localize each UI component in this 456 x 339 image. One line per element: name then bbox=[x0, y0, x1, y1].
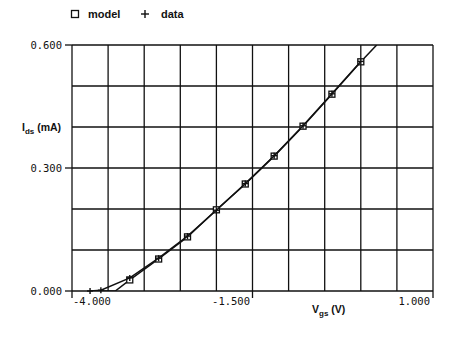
x-tick-label-neg1-5: -1.500 bbox=[212, 295, 250, 307]
legend: model data bbox=[72, 8, 185, 20]
legend-data-label: data bbox=[161, 8, 185, 20]
data-plus-marker-icon bbox=[98, 287, 104, 293]
y-tick-label-0600: 0.600 bbox=[30, 39, 62, 51]
legend-plus-marker-icon bbox=[141, 10, 149, 18]
x-tick-label-1: 1.000 bbox=[398, 295, 430, 307]
y-tick-label-0000: 0.000 bbox=[30, 285, 62, 297]
legend-model-label: model bbox=[88, 8, 120, 20]
x-axis-label: Vgs (V) bbox=[312, 303, 345, 318]
y-tick-label-0300: 0.300 bbox=[30, 162, 62, 174]
series-layer bbox=[87, 45, 377, 294]
plot-grid bbox=[72, 45, 433, 291]
iv-chart: model data 0.600 0.300 0.000 -4.000 -1.5… bbox=[0, 0, 456, 339]
series-line-data bbox=[90, 61, 361, 291]
legend-square-marker-icon bbox=[72, 11, 79, 18]
y-axis-label: Ids (mA) bbox=[22, 121, 61, 136]
x-tick-label-neg4: -4.000 bbox=[73, 295, 111, 307]
data-plus-marker-icon bbox=[87, 288, 93, 294]
axis-ticks bbox=[65, 45, 433, 298]
